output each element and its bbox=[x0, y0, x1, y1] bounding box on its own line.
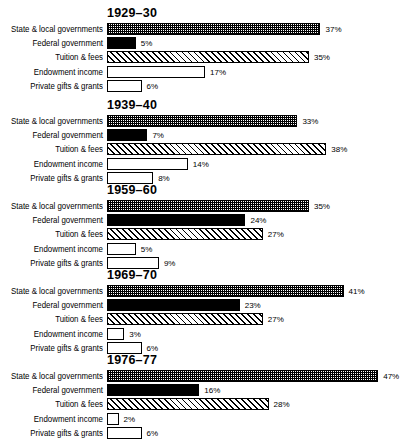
group-title: 1969–70 bbox=[107, 268, 157, 282]
category-label: Tuition & fees bbox=[0, 52, 103, 63]
bar-stipple bbox=[107, 257, 159, 269]
chart-row: State & local governments47% bbox=[0, 370, 414, 383]
bar-hatch bbox=[107, 313, 263, 325]
chart-row: State & local governments33% bbox=[0, 115, 414, 128]
bar-hatch bbox=[107, 51, 309, 63]
chart-row: Endowment income14% bbox=[0, 158, 414, 171]
group-title: 1929–30 bbox=[107, 6, 157, 20]
bar-solid bbox=[107, 129, 147, 141]
chart-row: Private gifts & grants9% bbox=[0, 257, 414, 270]
group-title: 1976–77 bbox=[107, 353, 157, 367]
bar-solid bbox=[107, 214, 245, 226]
chart-row: Endowment income2% bbox=[0, 413, 414, 426]
bar-stipple bbox=[107, 427, 142, 439]
category-label: Federal government bbox=[0, 300, 103, 311]
bar-value-label: 16% bbox=[204, 385, 220, 396]
category-label: Federal government bbox=[0, 130, 103, 141]
category-label: Private gifts & grants bbox=[0, 428, 103, 439]
bar-value-label: 7% bbox=[152, 130, 164, 141]
bar-value-label: 9% bbox=[164, 258, 176, 269]
bar-value-label: 6% bbox=[147, 81, 159, 92]
chart-row: Endowment income3% bbox=[0, 328, 414, 341]
bar-stipple bbox=[107, 342, 142, 354]
category-label: Endowment income bbox=[0, 67, 103, 78]
bar-value-label: 14% bbox=[193, 159, 209, 170]
category-label: Endowment income bbox=[0, 159, 103, 170]
chart-row: Tuition & fees38% bbox=[0, 143, 414, 156]
bar-value-label: 35% bbox=[314, 201, 330, 212]
grouped-bar-chart: 1929–30State & local governments37%Feder… bbox=[0, 0, 414, 443]
bar-value-label: 38% bbox=[331, 144, 347, 155]
chart-row: Federal government5% bbox=[0, 37, 414, 50]
bar-value-label: 24% bbox=[250, 215, 266, 226]
chart-row: State & local governments41% bbox=[0, 285, 414, 298]
category-label: Private gifts & grants bbox=[0, 258, 103, 269]
bar-white bbox=[107, 413, 119, 425]
category-label: Tuition & fees bbox=[0, 399, 103, 410]
bar-hatch bbox=[107, 143, 326, 155]
bar-solid bbox=[107, 384, 199, 396]
bar-checker bbox=[107, 285, 344, 297]
category-label: Federal government bbox=[0, 38, 103, 49]
bar-hatch bbox=[107, 228, 263, 240]
chart-row: Federal government16% bbox=[0, 384, 414, 397]
bar-value-label: 3% bbox=[129, 329, 141, 340]
chart-row: Tuition & fees27% bbox=[0, 313, 414, 326]
category-label: Federal government bbox=[0, 385, 103, 396]
category-label: State & local governments bbox=[0, 201, 103, 212]
bar-value-label: 6% bbox=[147, 428, 159, 439]
bar-value-label: 28% bbox=[274, 399, 290, 410]
bar-white bbox=[107, 66, 205, 78]
bar-white bbox=[107, 243, 136, 255]
bar-value-label: 27% bbox=[268, 314, 284, 325]
chart-row: Federal government24% bbox=[0, 214, 414, 227]
chart-row: Federal government7% bbox=[0, 129, 414, 142]
bar-value-label: 5% bbox=[141, 244, 153, 255]
bar-value-label: 37% bbox=[325, 24, 341, 35]
bar-solid bbox=[107, 299, 240, 311]
chart-row: Tuition & fees35% bbox=[0, 51, 414, 64]
category-label: Tuition & fees bbox=[0, 314, 103, 325]
bar-value-label: 41% bbox=[349, 286, 365, 297]
group-title: 1939–40 bbox=[107, 98, 157, 112]
bar-stipple bbox=[107, 80, 142, 92]
bar-value-label: 17% bbox=[210, 67, 226, 78]
category-label: Private gifts & grants bbox=[0, 81, 103, 92]
chart-row: Endowment income5% bbox=[0, 243, 414, 256]
category-label: State & local governments bbox=[0, 116, 103, 127]
category-label: Endowment income bbox=[0, 244, 103, 255]
category-label: Private gifts & grants bbox=[0, 343, 103, 354]
chart-row: Private gifts & grants8% bbox=[0, 172, 414, 185]
chart-row: Tuition & fees28% bbox=[0, 398, 414, 411]
category-label: Private gifts & grants bbox=[0, 173, 103, 184]
group-title: 1959–60 bbox=[107, 183, 157, 197]
bar-white bbox=[107, 158, 188, 170]
bar-value-label: 35% bbox=[314, 52, 330, 63]
chart-row: Endowment income17% bbox=[0, 66, 414, 79]
chart-row: Private gifts & grants6% bbox=[0, 427, 414, 440]
chart-row: Tuition & fees27% bbox=[0, 228, 414, 241]
bar-checker bbox=[107, 200, 309, 212]
chart-row: Private gifts & grants6% bbox=[0, 342, 414, 355]
category-label: State & local governments bbox=[0, 371, 103, 382]
bar-solid bbox=[107, 37, 136, 49]
bar-value-label: 23% bbox=[245, 300, 261, 311]
category-label: Endowment income bbox=[0, 414, 103, 425]
bar-value-label: 47% bbox=[383, 371, 399, 382]
category-label: Federal government bbox=[0, 215, 103, 226]
bar-value-label: 5% bbox=[141, 38, 153, 49]
bar-white bbox=[107, 328, 124, 340]
category-label: State & local governments bbox=[0, 286, 103, 297]
category-label: Endowment income bbox=[0, 329, 103, 340]
bar-value-label: 27% bbox=[268, 229, 284, 240]
chart-row: Private gifts & grants6% bbox=[0, 80, 414, 93]
bar-checker bbox=[107, 23, 320, 35]
bar-stipple bbox=[107, 172, 153, 184]
category-label: Tuition & fees bbox=[0, 229, 103, 240]
category-label: State & local governments bbox=[0, 24, 103, 35]
bar-value-label: 2% bbox=[124, 414, 136, 425]
bar-value-label: 33% bbox=[302, 116, 318, 127]
chart-row: Federal government23% bbox=[0, 299, 414, 312]
bar-value-label: 8% bbox=[158, 173, 170, 184]
bar-checker bbox=[107, 115, 297, 127]
